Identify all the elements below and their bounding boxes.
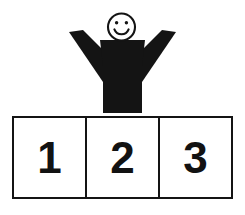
scene-canvas: 1 2 3 xyxy=(0,0,245,215)
number-box-label: 1 xyxy=(37,136,61,180)
figure-torso xyxy=(100,40,145,113)
number-box-1[interactable]: 1 xyxy=(14,118,87,197)
number-box-3[interactable]: 3 xyxy=(160,118,231,197)
right-eye-icon xyxy=(125,21,128,24)
number-box-2[interactable]: 2 xyxy=(87,118,160,197)
figure-head xyxy=(108,14,135,41)
number-box-label: 3 xyxy=(183,136,207,180)
left-eye-icon xyxy=(115,21,118,24)
head-outline-icon xyxy=(108,14,135,41)
number-box-label: 2 xyxy=(110,136,134,180)
numbered-boxes-row: 1 2 3 xyxy=(12,116,233,199)
